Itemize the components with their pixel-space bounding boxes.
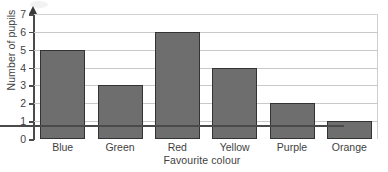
y-axis-tick-label-2: 2: [4, 98, 26, 109]
y-axis-tick-6: [29, 32, 34, 34]
bar-green: [98, 85, 143, 139]
y-axis-tick-3: [29, 85, 34, 87]
y-axis-tick-4: [29, 68, 34, 70]
x-axis-label-red: Red: [149, 142, 206, 153]
bar-purple: [270, 103, 315, 139]
x-axis-label-orange: Orange: [321, 142, 378, 153]
y-axis-tick-0: [29, 139, 34, 141]
y-axis-arrow-icon: [29, 6, 37, 14]
x-axis-label-yellow: Yellow: [206, 142, 263, 153]
x-axis-label-green: Green: [91, 142, 148, 153]
y-axis-tick-5: [29, 50, 34, 52]
bar-chart-figure: Number of pupils 01234567 Favourite colo…: [0, 0, 388, 172]
gridline-5: [34, 50, 378, 51]
y-axis-tick-1: [29, 121, 34, 123]
y-axis-tick-2: [29, 103, 34, 105]
y-axis-tick-label-6: 6: [4, 27, 26, 38]
x-axis-title: Favourite colour: [26, 154, 378, 166]
bar-orange: [327, 121, 372, 139]
y-axis-tick-label-5: 5: [4, 45, 26, 56]
gridline-7: [34, 14, 378, 15]
gridline-2: [34, 103, 378, 104]
gridline-4: [34, 68, 378, 69]
gridline-3: [34, 85, 378, 86]
x-axis-label-blue: Blue: [34, 142, 91, 153]
y-axis-tick-label-0: 0: [4, 134, 26, 145]
plot-area: [34, 14, 378, 139]
y-axis-tick-7: [29, 14, 34, 16]
gridline-6: [34, 32, 378, 33]
x-axis-label-purple: Purple: [263, 142, 320, 153]
y-axis-tick-label-7: 7: [4, 9, 26, 20]
y-axis-tick-labels: 01234567: [0, 0, 26, 172]
bar-red: [155, 32, 200, 139]
x-axis-baseline: [0, 125, 344, 127]
y-axis-tick-label-4: 4: [4, 63, 26, 74]
bar-yellow: [212, 68, 257, 139]
y-axis-tick-label-3: 3: [4, 80, 26, 91]
